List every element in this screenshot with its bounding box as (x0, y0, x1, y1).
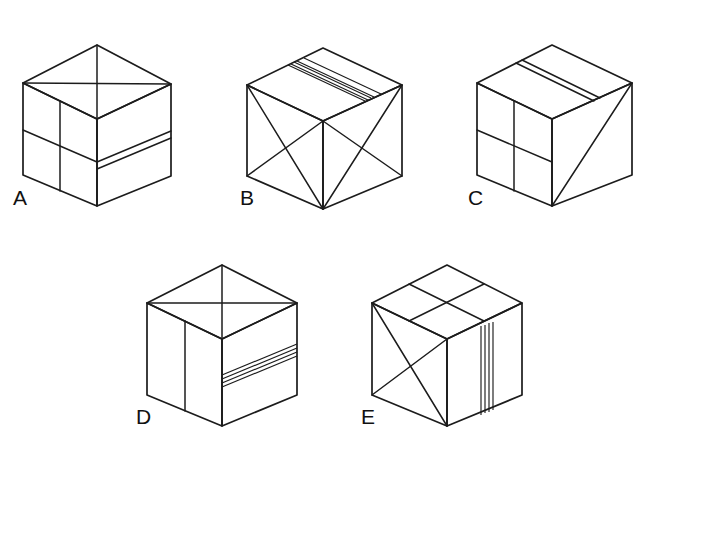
cube-e-top-marks (409, 284, 484, 321)
cube-a-right-face (97, 84, 171, 206)
cube-d-top-marks (147, 265, 297, 339)
cube-option-c[interactable]: C (468, 45, 632, 209)
cube-option-e[interactable]: E (361, 265, 522, 428)
cube-e-label: E (361, 405, 375, 428)
cube-a-top-marks (23, 45, 171, 119)
question-sheet: A B (0, 0, 716, 537)
cube-a-label: A (13, 186, 27, 209)
cube-d-right-face (222, 303, 297, 426)
cube-c-label: C (468, 186, 483, 209)
cube-b-top-face (247, 48, 402, 121)
cube-b-top-stripe-band (288, 58, 381, 101)
cube-d-label: D (136, 405, 151, 428)
cube-c-top-stripe-band (516, 60, 600, 101)
cube-a-right-marks (97, 131, 171, 169)
cube-e-right-stripe-band (481, 322, 493, 415)
cube-option-a[interactable]: A (13, 45, 171, 209)
cube-b-label: B (240, 186, 254, 209)
cube-option-b[interactable]: B (240, 48, 402, 209)
cube-d-right-stripe-band (222, 344, 297, 387)
cube-option-d[interactable]: D (136, 265, 297, 428)
answer-row: Answer: (0, 455, 716, 515)
